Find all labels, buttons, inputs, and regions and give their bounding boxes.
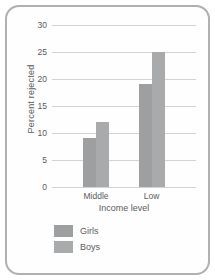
gridline-30 bbox=[52, 25, 196, 26]
x-axis-title: Income level bbox=[52, 203, 196, 213]
legend-label-girls: Girls bbox=[80, 226, 99, 236]
bar-boys-low bbox=[152, 52, 165, 187]
x-category-label-middle: Middle bbox=[66, 191, 126, 201]
y-tick-label-15: 15 bbox=[22, 101, 47, 111]
y-tick-label-10: 10 bbox=[22, 128, 47, 138]
legend-swatch-girls bbox=[54, 225, 73, 237]
y-tick-label-20: 20 bbox=[22, 74, 47, 84]
legend: GirlsBoys bbox=[54, 225, 100, 257]
legend-item-girls: Girls bbox=[54, 225, 100, 237]
gridline-15 bbox=[52, 106, 196, 107]
bar-boys-middle bbox=[96, 122, 109, 187]
gridline-25 bbox=[52, 52, 196, 53]
y-tick-label-5: 5 bbox=[22, 155, 47, 165]
bar-girls-middle bbox=[83, 138, 96, 187]
gridline-5 bbox=[52, 160, 196, 161]
plot-area: 051015202530MiddleLow bbox=[52, 25, 196, 187]
gridline-0 bbox=[52, 187, 196, 188]
y-tick-label-0: 0 bbox=[22, 182, 47, 192]
legend-swatch-boys bbox=[54, 241, 73, 253]
bar-girls-low bbox=[139, 84, 152, 187]
y-tick-label-30: 30 bbox=[22, 20, 47, 30]
y-tick-label-25: 25 bbox=[22, 47, 47, 57]
gridline-10 bbox=[52, 133, 196, 134]
gridline-20 bbox=[52, 79, 196, 80]
x-category-label-low: Low bbox=[122, 191, 182, 201]
legend-label-boys: Boys bbox=[80, 242, 100, 252]
chart-card: Percent rejected 051015202530MiddleLow I… bbox=[5, 5, 210, 275]
legend-item-boys: Boys bbox=[54, 241, 100, 253]
